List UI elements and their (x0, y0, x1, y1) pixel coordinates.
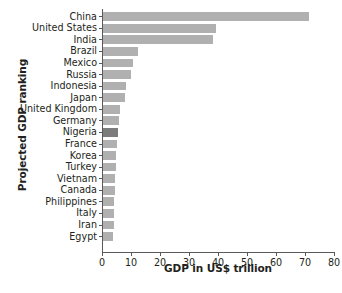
bar-row: Indonesia (102, 81, 334, 93)
bar (103, 151, 116, 160)
plot-area: ChinaUnited StatesIndiaBrazilMexicoRussi… (102, 9, 334, 252)
bar (103, 174, 115, 183)
bar-row: Japan (102, 92, 334, 104)
y-axis-tick-label: Russia (66, 69, 97, 81)
y-axis-tick-label: Iran (78, 219, 97, 231)
bar (103, 35, 213, 44)
y-axis-tick (99, 225, 103, 226)
x-axis-tick (160, 252, 161, 256)
y-axis-tick (99, 28, 103, 29)
y-axis-tick-label: Vietnam (57, 173, 97, 185)
y-axis-tick (99, 74, 103, 75)
bar (103, 70, 131, 79)
y-axis-tick (99, 97, 103, 98)
y-axis-tick-label: Canada (60, 184, 97, 196)
x-axis-tick (189, 252, 190, 256)
y-axis-tick (99, 86, 103, 87)
bar-row: Canada (102, 185, 334, 197)
y-axis-tick (99, 155, 103, 156)
bar-row: Turkey (102, 162, 334, 174)
bar (103, 197, 114, 206)
bar-row: Korea (102, 150, 334, 162)
y-axis-tick-label: United States (32, 22, 97, 34)
y-axis-tick-label: China (70, 11, 97, 23)
x-axis-tick (276, 252, 277, 256)
x-axis-title: GDP in US$ trillion (102, 262, 334, 274)
y-axis-tick (99, 144, 103, 145)
y-axis-tick (99, 120, 103, 121)
y-axis-tick (99, 236, 103, 237)
y-axis-tick-label: Philippines (45, 196, 97, 208)
y-axis-tick-label: Korea (70, 150, 97, 162)
y-axis-tick-label: Egypt (69, 231, 97, 243)
bar-row: India (102, 34, 334, 46)
y-axis-tick-label: Nigeria (63, 126, 97, 138)
bar (103, 47, 138, 56)
y-axis-tick (99, 201, 103, 202)
bar-row: Philippines (102, 196, 334, 208)
y-axis-tick-label: Brazil (70, 45, 97, 57)
bar (103, 186, 115, 195)
y-axis-tick (99, 190, 103, 191)
y-axis-tick-label: Turkey (66, 161, 97, 173)
x-axis-tick (334, 252, 335, 256)
bar-row: United Kingdom (102, 104, 334, 116)
bar (103, 163, 116, 172)
bar (103, 93, 125, 102)
x-axis-tick (305, 252, 306, 256)
bar-row: Italy (102, 208, 334, 220)
bar (103, 140, 117, 149)
bar-row: Russia (102, 69, 334, 81)
bar-row: Iran (102, 219, 334, 231)
bar-row: Vietnam (102, 173, 334, 185)
bar (103, 59, 133, 68)
bar-row: Mexico (102, 57, 334, 69)
bottom-caption (8, 286, 342, 293)
x-axis-tick (247, 252, 248, 256)
y-axis-tick-label: United Kingdom (20, 103, 97, 115)
y-axis-tick (99, 16, 103, 17)
y-axis-tick-label: Indonesia (51, 80, 97, 92)
bar (103, 105, 120, 114)
bar (103, 128, 118, 137)
y-axis-tick-label: France (65, 138, 97, 150)
y-axis-tick-label: Mexico (64, 57, 98, 69)
x-axis-tick (218, 252, 219, 256)
bar (103, 12, 309, 21)
bar (103, 221, 114, 230)
bar (103, 24, 216, 33)
y-axis-tick (99, 167, 103, 168)
y-axis-tick-label: Italy (76, 207, 97, 219)
y-axis-tick (99, 213, 103, 214)
bar-row: Brazil (102, 46, 334, 58)
chart-figure: Projected GDP ranking ChinaUnited States… (0, 0, 342, 293)
bar (103, 209, 114, 218)
bar (103, 116, 119, 125)
bar-row: China (102, 11, 334, 23)
bar-row: Germany (102, 115, 334, 127)
y-axis-tick (99, 39, 103, 40)
y-axis-tick (99, 63, 103, 64)
y-axis-title: Projected GDP ranking (16, 25, 28, 225)
bar-row: Egypt (102, 231, 334, 243)
bar (103, 82, 126, 91)
bar-row: United States (102, 23, 334, 35)
y-axis-tick (99, 51, 103, 52)
bar-row: France (102, 138, 334, 150)
bar-row: Nigeria (102, 127, 334, 139)
y-axis-tick (99, 132, 103, 133)
y-axis-tick (99, 109, 103, 110)
y-axis-tick-label: India (73, 34, 97, 46)
bar (103, 232, 113, 241)
y-axis-tick-label: Japan (70, 92, 97, 104)
x-axis-tick (102, 252, 103, 256)
y-axis-tick (99, 178, 103, 179)
y-axis-tick-label: Germany (53, 115, 97, 127)
x-axis-tick (131, 252, 132, 256)
